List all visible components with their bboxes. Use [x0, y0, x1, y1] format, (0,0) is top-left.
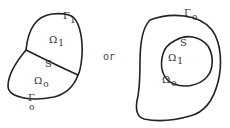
- right-outer-boundary: [136, 15, 220, 120]
- label-omega1-right: Ω1: [168, 52, 183, 66]
- label-gamma0-left: Γo: [28, 92, 35, 112]
- right-figure: S Ω1 Ωo Γo: [136, 7, 220, 120]
- label-gamma1: Γ1: [63, 10, 76, 25]
- label-S-left: S: [45, 58, 52, 69]
- label-gamma0-right: Γo: [184, 7, 197, 22]
- label-omega1-left: Ω1: [49, 34, 64, 48]
- domain-diagram: Ω1 S Ωo Γ1 Γo or S Ω1 Ωo Γo: [0, 0, 230, 128]
- label-S-right: S: [180, 37, 187, 48]
- label-omega0-right: Ωo: [162, 74, 177, 88]
- or-connector: or: [103, 51, 115, 62]
- left-figure: Ω1 S Ωo Γ1 Γo: [8, 10, 82, 112]
- label-omega0-left: Ωo: [34, 75, 49, 89]
- left-interface-S: [26, 50, 78, 75]
